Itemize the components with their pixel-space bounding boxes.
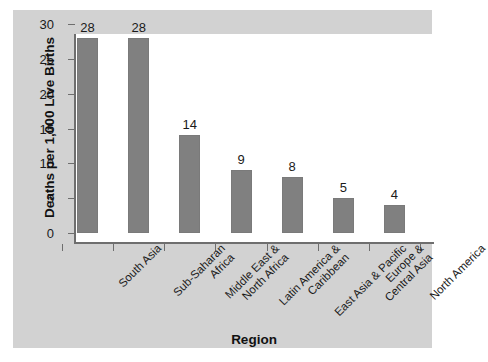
- x-category-label: South Asia: [116, 242, 164, 290]
- x-category-label: Sub-SaharanAfrica: [171, 242, 237, 308]
- bar: [333, 198, 354, 233]
- y-tick-mark: [68, 59, 75, 60]
- bar: [77, 38, 98, 233]
- x-label-line: South Asia: [116, 242, 164, 290]
- bar: [384, 205, 405, 233]
- x-tick-mark: [113, 244, 114, 251]
- bar-value-label: 28: [68, 21, 108, 34]
- y-tick-mark: [68, 163, 75, 164]
- x-tick-mark: [164, 244, 165, 251]
- bar-value-label: 14: [170, 118, 210, 131]
- bar-value-label: 4: [374, 188, 414, 201]
- x-label-line: North America: [428, 242, 488, 302]
- y-tick-mark: [68, 233, 75, 234]
- y-tick-mark: [68, 198, 75, 199]
- y-axis-title: Deaths per 1,000 Live Births: [42, 18, 57, 238]
- x-axis-line: [74, 242, 434, 244]
- chart-panel: 051015202530 2828149854 South AsiaSub-Sa…: [13, 10, 432, 348]
- bar: [231, 170, 252, 233]
- x-tick-mark: [62, 244, 63, 251]
- x-tick-mark: [318, 244, 319, 251]
- x-tick-mark: [369, 244, 370, 251]
- x-axis-title: Region: [75, 332, 433, 347]
- bar-value-label: 9: [221, 153, 261, 166]
- x-category-label: North America: [428, 242, 488, 302]
- bar-value-label: 8: [272, 160, 312, 173]
- bar: [282, 177, 303, 233]
- y-tick-mark: [68, 129, 75, 130]
- bar: [128, 38, 149, 233]
- bar: [179, 135, 200, 233]
- bar-value-label: 5: [323, 181, 363, 194]
- bar-value-label: 28: [119, 21, 159, 34]
- y-tick-mark: [68, 94, 75, 95]
- y-axis-line: [74, 34, 76, 244]
